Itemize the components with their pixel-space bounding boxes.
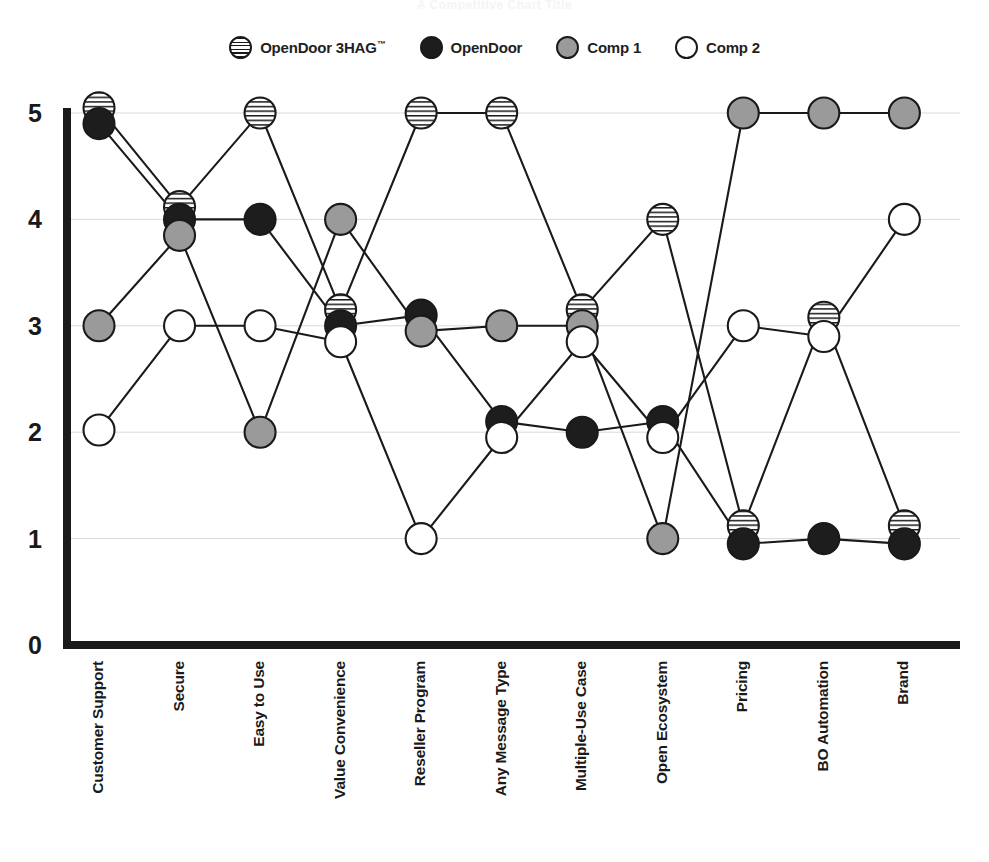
data-point [889,98,920,129]
x-axis-label: Reseller Program [411,661,428,786]
data-point [84,415,115,446]
y-tick-label: 2 [28,418,42,446]
x-axis-label: Open Ecosystem [653,661,670,784]
data-point [728,98,759,129]
data-point [406,98,437,129]
data-point [647,523,678,554]
data-point [808,523,839,554]
data-point [245,204,276,235]
data-point [164,310,195,341]
x-axis-label: Brand [894,661,911,705]
data-point [84,310,115,341]
series-line-3 [99,219,904,538]
data-point [889,528,920,559]
data-point [84,108,115,139]
y-tick-label: 0 [28,631,42,659]
x-axis-label: Secure [170,660,187,711]
x-axis-label: Easy to Use [250,660,267,746]
axis-lines [63,108,960,645]
data-point [889,204,920,235]
data-point [728,528,759,559]
data-point [406,316,437,347]
data-point [486,310,517,341]
data-point [567,326,598,357]
y-tick-label: 3 [28,312,42,340]
data-point [245,417,276,448]
y-axis-ticks: 543210 [28,99,42,659]
data-point [325,204,356,235]
x-axis-label: Any Message Type [492,660,509,796]
data-point [486,98,517,129]
data-point [164,220,195,251]
data-point [647,422,678,453]
y-tick-label: 1 [28,525,42,553]
data-point [808,98,839,129]
competitive-comparison-chart: A Competitive Chart Title OpenDoor 3HAG™… [0,0,989,862]
x-axis-label: BO Automation [814,661,831,771]
y-tick-label: 5 [28,99,42,127]
y-tick-label: 4 [28,205,42,233]
plot-svg: 543210 Customer SupportSecureEasy to Use… [0,0,989,862]
data-point [647,204,678,235]
x-axis-label: Multiple-Use Case [572,660,589,791]
x-axis-labels: Customer SupportSecureEasy to UseValue C… [89,660,911,798]
x-axis-label: Pricing [733,661,750,712]
data-point [406,523,437,554]
data-point [325,326,356,357]
x-axis-label: Value Convenience [331,660,348,798]
data-point [245,98,276,129]
data-point [808,321,839,352]
data-point [245,310,276,341]
x-axis-label: Customer Support [89,661,106,794]
data-point [486,422,517,453]
data-point [567,417,598,448]
plot-area: 543210 Customer SupportSecureEasy to Use… [0,0,989,862]
data-point [728,310,759,341]
